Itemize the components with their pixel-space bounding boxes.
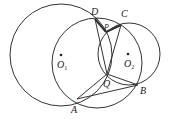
segment-cq xyxy=(107,25,121,74)
label-c: C xyxy=(121,8,128,19)
center-o2-dot xyxy=(127,53,130,56)
label-o2: O2 xyxy=(124,58,134,70)
label-o1: O1 xyxy=(57,59,67,71)
label-b: B xyxy=(140,85,146,96)
label-d: D xyxy=(90,6,99,17)
geometry-diagram: D C P Q A B O1 O2 xyxy=(0,0,171,122)
label-p: P xyxy=(103,23,109,32)
label-q: Q xyxy=(103,78,111,89)
center-o1-dot xyxy=(60,54,63,57)
label-a: A xyxy=(70,104,78,115)
diagram-svg: D C P Q A B O1 O2 xyxy=(0,0,171,122)
